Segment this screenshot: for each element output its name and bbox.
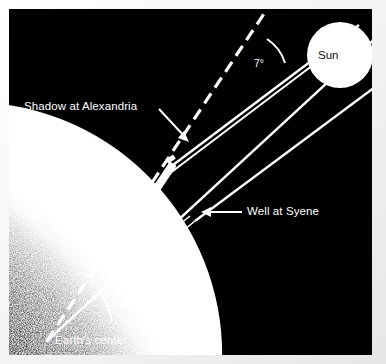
- sun-ray-to-syene: [195, 87, 372, 221]
- earth-body: [9, 103, 221, 355]
- label-sun: Sun: [318, 50, 338, 62]
- angle-label-top: 7°: [254, 58, 264, 69]
- label-well-at-syene: Well at Syene: [247, 206, 319, 218]
- callout-arrow-alexandria: [159, 109, 189, 142]
- angle-label-bottom: 7°: [89, 279, 99, 290]
- sun-disc: [307, 22, 372, 88]
- diagram-panel: Shadow at Alexandria Well at Syene Earth…: [9, 9, 372, 355]
- label-earths-center: Earth's center: [55, 335, 127, 347]
- eratosthenes-diagram: Shadow at Alexandria Well at Syene Earth…: [0, 0, 386, 364]
- callout-arrow-syene: [201, 207, 242, 217]
- angle-marker-sun: [267, 39, 285, 63]
- label-shadow-at-alexandria: Shadow at Alexandria: [24, 101, 137, 113]
